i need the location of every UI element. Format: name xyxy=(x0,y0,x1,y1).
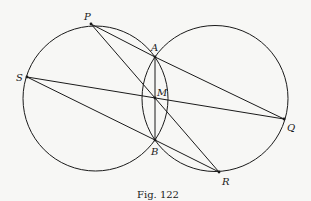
point-B xyxy=(154,139,157,142)
figure-caption: Fig. 122 xyxy=(137,189,179,200)
label-R: R xyxy=(221,176,230,187)
point-S xyxy=(26,76,29,79)
label-A: A xyxy=(150,42,158,53)
point-P xyxy=(90,23,93,26)
point-R xyxy=(218,171,221,174)
segment-AQ xyxy=(155,57,284,119)
segment-SB xyxy=(27,77,155,140)
label-M: M xyxy=(156,87,168,98)
label-Q: Q xyxy=(287,122,295,133)
label-S: S xyxy=(16,72,23,83)
point-Q xyxy=(283,118,286,121)
label-B: B xyxy=(150,146,158,157)
segment-BR xyxy=(155,140,219,172)
segment-PA xyxy=(91,24,155,57)
point-A xyxy=(154,56,157,59)
label-P: P xyxy=(83,11,91,22)
geometry-figure: P A S M Q B R Fig. 122 xyxy=(0,0,311,201)
right-circle xyxy=(142,26,288,172)
left-circle xyxy=(23,26,168,171)
point-M xyxy=(154,97,157,100)
